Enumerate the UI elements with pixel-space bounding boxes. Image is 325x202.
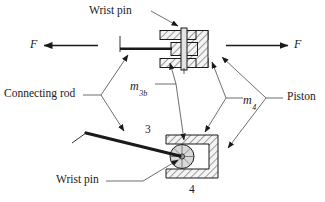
label-link-3: 3 [145,124,151,136]
label-mass-3b-subscript: 3b [139,89,147,98]
engineering-diagram: Wrist pin F F Connecting rod m3b m4 Pist… [0,0,325,202]
label-force-left: F [30,38,37,50]
wrist-pin-circle-lower [170,145,194,169]
label-force-right: F [294,38,301,50]
label-mass-3b-symbol: m [130,79,139,93]
leader-connecting-rod [83,55,128,131]
leader-mass-3b [155,63,184,140]
leader-mass-4 [205,62,243,132]
label-link-4: 4 [189,184,195,196]
leader-wrist-pin-top [151,11,178,26]
label-connecting-rod: Connecting rod [4,88,75,100]
label-mass-3b: m3b [130,77,147,96]
lower-link-assembly [72,133,218,178]
rod-end-bearing-right [187,43,198,56]
label-wrist-pin-bottom: Wrist pin [56,174,99,186]
rod-end-bearing-left [171,43,182,56]
label-wrist-pin-top: Wrist pin [89,5,132,17]
label-piston: Piston [287,91,316,103]
label-mass-4-symbol: m [243,93,252,107]
connecting-rod-link-3 [72,133,180,156]
upper-piston-assembly [120,28,208,74]
label-mass-4-subscript: 4 [252,103,256,112]
diagram-canvas [0,0,325,202]
wrist-pin-shaft-upper [181,28,187,70]
label-mass-4: m4 [243,91,256,110]
